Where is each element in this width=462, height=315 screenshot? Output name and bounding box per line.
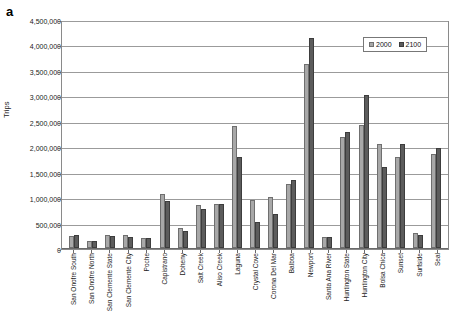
x-axis-tick-label: Salt Creek [197,253,204,283]
bar-group [318,22,336,248]
bar-group [427,22,445,248]
x-axis-label-cell: Huntington City [355,250,373,314]
x-axis-tick-label: San Onofre North [88,253,95,304]
x-axis-tick-label: San Clemente City [124,253,131,307]
y-axis-tick-label: 0 [5,247,61,254]
bar [273,214,278,248]
plot-area [61,21,449,250]
x-axis-tick-label: Aliso Creek [215,253,222,286]
bar-group [155,22,173,248]
bar [146,238,151,248]
x-axis-tick-label: Capistrano [161,253,168,284]
bar-group [137,22,155,248]
x-axis-label-cell: Aliso Creek [210,250,228,314]
bar-group [264,22,282,248]
bar-group [83,22,101,248]
x-axis-tick-label: Bolsa Chica [379,253,386,288]
x-axis-tick-label: Santa Ana River [324,253,331,300]
x-axis-label-cell: Laguna [228,250,246,314]
x-axis-label-cell: Santa Ana River [319,250,337,314]
bar-group [282,22,300,248]
bar [364,95,369,248]
legend-item: 2000 [369,41,392,48]
bar-group [336,22,354,248]
x-axis-label-cell: Corona Del Mar [264,250,282,314]
x-axis-label-cell: San Onofre North [82,250,100,314]
x-axis-tick-label: San Clemente State [106,253,113,311]
x-axis-tick-label: Newport [306,253,313,277]
y-axis: Trips 0500,0001,000,0001,500,0002,000,00… [0,0,61,315]
bar [345,132,350,248]
y-axis-tick-label: 500,000 [5,221,61,228]
x-axis-label-cell: Sunset [391,250,409,314]
x-axis-label-cell: San Onofre South [64,250,82,314]
bar-group [65,22,83,248]
x-axis-tick-label: Crystal Cove [251,253,258,290]
bar-series-container [62,22,448,248]
x-axis-label-cell: Newport [300,250,318,314]
x-axis-line [62,248,448,249]
bar-group [409,22,427,248]
x-axis-labels: San Onofre SouthSan Onofre NorthSan Clem… [61,250,449,314]
bar [219,204,224,248]
x-axis-label-cell: Doheny [173,250,191,314]
bar-group [300,22,318,248]
y-axis-tick-label: 2,000,000 [5,145,61,152]
x-axis-label-cell: Balboa [282,250,300,314]
bar-group [119,22,137,248]
bar-group [391,22,409,248]
y-axis-tick-label: 3,500,000 [5,68,61,75]
x-axis-label-cell: San Clemente City [119,250,137,314]
legend-swatch [369,42,374,47]
bar-group [192,22,210,248]
bar [74,235,79,248]
legend-item: 2100 [399,41,422,48]
bar-group [355,22,373,248]
x-axis-label-cell: Bolsa Chica [373,250,391,314]
y-axis-tick-label: 2,500,000 [5,119,61,126]
bar [327,237,332,248]
x-axis-tick-label: Huntington State [342,253,349,301]
x-axis-tick-label: Surfside [415,253,422,277]
bar [291,180,296,248]
bar-group [228,22,246,248]
x-axis-tick-label: Sunset [397,253,404,273]
bar-group [101,22,119,248]
y-axis-tick-label: 3,000,000 [5,94,61,101]
legend: 20002100 [363,37,427,52]
x-axis-tick-label: Doheny [179,253,186,275]
y-axis-title: Trips [2,102,11,118]
x-axis-label-cell: Seal [428,250,446,314]
bar-group [210,22,228,248]
x-axis-tick-label: Laguna [233,253,240,275]
y-axis-tick-label: 1,500,000 [5,170,61,177]
bar [183,231,188,248]
bar-group [373,22,391,248]
y-axis-tick-label: 4,500,000 [5,18,61,25]
legend-swatch [399,42,404,47]
x-axis-label-cell: Huntington State [337,250,355,314]
x-axis-label-cell: Crystal Cove [246,250,264,314]
bar [165,201,170,248]
bar [382,167,387,248]
bar [436,148,441,248]
bar-group [174,22,192,248]
bar [128,237,133,248]
legend-label: 2100 [406,41,422,48]
x-axis-tick-label: Poche [142,253,149,271]
x-axis-label-cell: Capistrano [155,250,173,314]
x-axis-tick-label: Seal [433,253,440,266]
y-axis-tick-label: 4,000,000 [5,43,61,50]
x-axis-tick-label: San Onofre South [70,253,77,305]
y-axis-tick-label: 1,000,000 [5,196,61,203]
legend-label: 2000 [376,41,392,48]
bar [201,209,206,248]
bar [237,157,242,248]
x-axis-label-cell: Surfside [410,250,428,314]
bar [92,241,97,248]
x-axis-tick-label: Corona Del Mar [270,253,277,299]
x-axis-tick-label: Huntington City [361,253,368,297]
bar [255,222,260,248]
bar [110,236,115,248]
bar-group [246,22,264,248]
